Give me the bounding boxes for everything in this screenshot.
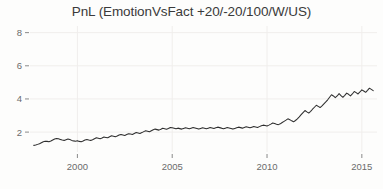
plot-area: 24682000200520102015: [0, 0, 383, 189]
x-tick-label: 2000: [67, 161, 88, 172]
y-tick-label: 6: [17, 60, 22, 71]
y-tick-label: 8: [17, 27, 22, 38]
y-tick-label: 4: [17, 93, 22, 104]
x-tick-label: 2010: [256, 161, 277, 172]
tickmarks-group: [25, 33, 362, 158]
gridlines-group: [30, 26, 377, 152]
series-line: [34, 88, 373, 145]
x-tick-label: 2015: [351, 161, 372, 172]
y-tick-label: 2: [17, 127, 22, 138]
data-series-group: [34, 88, 373, 145]
x-tick-label: 2005: [162, 161, 183, 172]
chart-container: PnL (EmotionVsFact +20/-20/100/W/US) 246…: [0, 0, 383, 189]
axis-labels-group: 24682000200520102015: [17, 27, 373, 172]
